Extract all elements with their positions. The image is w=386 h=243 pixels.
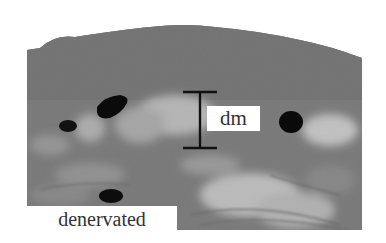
denervated-label: denervated [27, 206, 177, 234]
dm-label: dm [207, 106, 260, 131]
